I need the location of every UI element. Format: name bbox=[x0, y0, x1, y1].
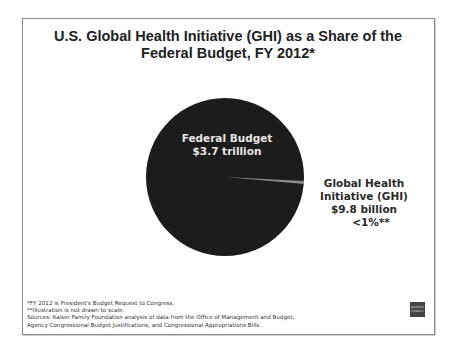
footnote-fy: *FY 2012 is President's Budget Request t… bbox=[27, 300, 407, 307]
label-ghi: Global Health Initiative (GHI) $9.8 bill… bbox=[308, 177, 420, 229]
footnote-sources-line1: Sources: Kaiser Family Foundation analys… bbox=[27, 314, 407, 321]
label-ghi-percent: <1%** bbox=[308, 216, 420, 229]
logo-line2: FAMILY bbox=[410, 309, 425, 313]
label-federal-value: $3.7 trillion bbox=[172, 145, 282, 158]
label-ghi-value: $9.8 billion bbox=[308, 203, 420, 216]
label-ghi-name-line1: Global Health bbox=[308, 177, 420, 190]
footnote-scale: **Illustration is not drawn to scale. bbox=[27, 307, 407, 314]
label-ghi-name-line2: Initiative (GHI) bbox=[308, 190, 420, 203]
label-federal-budget: Federal Budget $3.7 trillion bbox=[172, 132, 282, 158]
footnote-sources-line2: Agency Congressional Budget Justificatio… bbox=[27, 322, 407, 329]
pie-chart bbox=[0, 0, 456, 346]
footnotes: *FY 2012 is President's Budget Request t… bbox=[27, 300, 407, 329]
label-federal-name: Federal Budget bbox=[172, 132, 282, 145]
kaiser-logo: KAISER FAMILY bbox=[410, 302, 425, 317]
